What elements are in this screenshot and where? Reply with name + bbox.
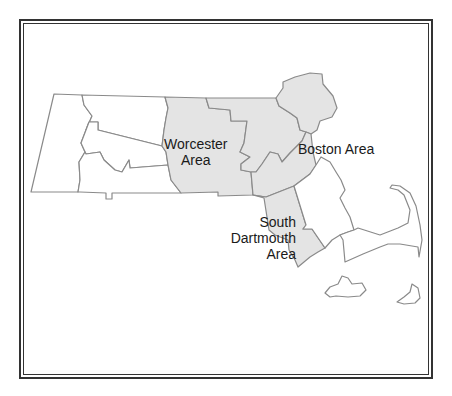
massachusetts-map (0, 0, 452, 396)
label-worcester-line2: Area (164, 152, 228, 168)
label-boston-area: Boston Area (298, 141, 374, 157)
label-worcester-line1: Worcester (164, 136, 228, 152)
label-south-dartmouth-line2: Dartmouth (220, 230, 296, 246)
label-boston-line1: Boston Area (298, 141, 374, 157)
island-marthas-vineyard (325, 276, 366, 297)
label-south-dartmouth-area: South Dartmouth Area (220, 214, 296, 262)
label-south-dartmouth-line3: Area (220, 246, 296, 262)
label-worcester-area: Worcester Area (164, 136, 228, 168)
label-south-dartmouth-line1: South (220, 214, 296, 230)
island-nantucket (397, 284, 420, 304)
